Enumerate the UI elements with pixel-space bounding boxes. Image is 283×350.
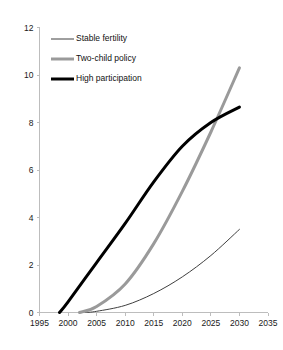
y-tick-label: 12 bbox=[24, 23, 34, 33]
y-tick-label: 8 bbox=[29, 118, 34, 128]
x-tick-label: 2000 bbox=[59, 318, 78, 328]
y-tick-label: 0 bbox=[29, 308, 34, 318]
x-tick-label: 2025 bbox=[201, 318, 220, 328]
series-line bbox=[59, 107, 239, 312]
legend-label: Stable fertility bbox=[76, 33, 128, 43]
y-tick-label: 6 bbox=[29, 165, 34, 175]
x-tick-label: 2005 bbox=[87, 318, 106, 328]
x-tick-label: 2015 bbox=[144, 318, 163, 328]
series-line bbox=[79, 68, 239, 313]
chart-canvas: 024681012 199520002005201020152020202520… bbox=[0, 0, 283, 350]
legend-label: Two-child policy bbox=[76, 53, 137, 63]
chart-legend: Stable fertilityTwo-child policyHigh par… bbox=[51, 33, 142, 83]
y-tick-label: 4 bbox=[29, 213, 34, 223]
axes bbox=[40, 28, 269, 313]
y-tick-label: 10 bbox=[24, 70, 34, 80]
y-tick-label: 2 bbox=[29, 260, 34, 270]
x-tick-label: 1995 bbox=[30, 318, 49, 328]
x-axis-ticks: 199520002005201020152020202520302035 bbox=[30, 313, 278, 328]
y-axis-ticks: 024681012 bbox=[24, 23, 39, 318]
x-tick-label: 2030 bbox=[230, 318, 249, 328]
legend-label: High participation bbox=[76, 73, 142, 83]
x-tick-label: 2035 bbox=[259, 318, 278, 328]
line-chart: 024681012 199520002005201020152020202520… bbox=[0, 0, 283, 350]
x-tick-label: 2010 bbox=[116, 318, 135, 328]
x-tick-label: 2020 bbox=[173, 318, 192, 328]
series-lines bbox=[59, 68, 239, 313]
